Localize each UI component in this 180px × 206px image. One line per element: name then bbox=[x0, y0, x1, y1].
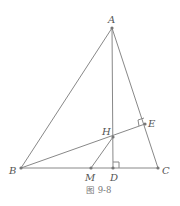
point-M bbox=[89, 166, 92, 169]
label-M: M bbox=[84, 172, 96, 183]
label-D: D bbox=[109, 172, 118, 183]
geometry-figure: A B C D E H M 图 9-8 bbox=[0, 0, 180, 206]
segment-BE bbox=[21, 124, 145, 168]
point-E bbox=[143, 122, 146, 125]
label-B: B bbox=[8, 165, 16, 176]
figure-canvas: A B C D E H M 图 9-8 bbox=[0, 0, 180, 206]
point-C bbox=[156, 166, 159, 169]
label-C: C bbox=[162, 165, 170, 176]
point-H bbox=[111, 135, 114, 138]
segment-AB bbox=[21, 28, 112, 168]
label-E: E bbox=[147, 118, 156, 129]
segment-AD bbox=[112, 28, 113, 168]
point-A bbox=[110, 26, 113, 29]
label-A: A bbox=[107, 14, 115, 25]
point-B bbox=[19, 166, 22, 169]
figure-caption: 图 9-8 bbox=[86, 185, 111, 195]
label-H: H bbox=[101, 126, 111, 137]
segment-AC bbox=[112, 28, 158, 168]
point-D bbox=[111, 166, 114, 169]
